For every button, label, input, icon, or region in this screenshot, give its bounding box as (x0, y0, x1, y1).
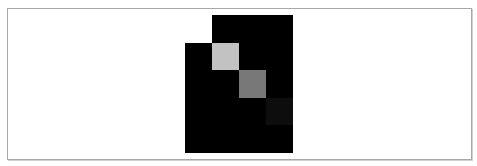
grid-cell (239, 98, 266, 126)
grid-cell (239, 125, 266, 153)
grid-cell (212, 98, 239, 126)
grid-cell (239, 70, 266, 98)
grid-cell (212, 70, 239, 98)
grid-cell (185, 98, 212, 126)
grid-cell (239, 43, 266, 71)
grid-cell (266, 125, 293, 153)
grid-cell (266, 70, 293, 98)
grid-cell (239, 15, 266, 43)
grid-cell (185, 70, 212, 98)
grid-cell (185, 43, 212, 71)
grid-cell (212, 125, 239, 153)
grid-cell (266, 15, 293, 43)
grid-cell (266, 43, 293, 71)
grid-cell (185, 125, 212, 153)
grid-cell (185, 15, 212, 43)
grid-cell (266, 98, 293, 126)
grid-cell (212, 15, 239, 43)
grid-cell (212, 43, 239, 71)
grayscale-grid (185, 15, 293, 153)
